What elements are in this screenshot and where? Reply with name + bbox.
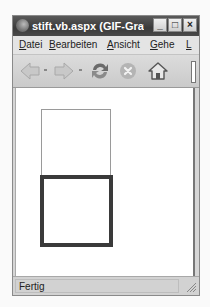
forward-arrow-icon[interactable]	[53, 61, 75, 81]
forward-dropdown[interactable]	[79, 69, 82, 71]
minimize-button[interactable]: _	[153, 18, 167, 32]
thick-rectangle	[40, 175, 113, 247]
menu-lesezeichen[interactable]: L	[186, 36, 192, 54]
browser-window: stift.vb.aspx (GIF-Graf... _ □ × Datei B…	[12, 15, 200, 296]
back-dropdown[interactable]	[44, 69, 47, 71]
thin-rectangle	[41, 109, 111, 177]
menu-ansicht[interactable]: Ansicht	[107, 36, 140, 54]
stop-icon[interactable]	[118, 61, 138, 81]
close-button[interactable]: ×	[183, 18, 197, 32]
url-bar-edge[interactable]	[191, 61, 196, 83]
status-bar: Fertig	[13, 276, 199, 295]
back-arrow-icon[interactable]	[19, 61, 41, 81]
title-bar[interactable]: stift.vb.aspx (GIF-Graf... _ □ ×	[13, 16, 199, 36]
menu-bar: Datei Bearbeiten Ansicht Gehe L	[13, 36, 199, 55]
window-title: stift.vb.aspx (GIF-Graf...	[32, 16, 144, 36]
browser-logo-icon	[16, 19, 29, 32]
reload-icon[interactable]	[89, 61, 111, 81]
window-controls: _ □ ×	[153, 18, 197, 32]
status-text: Fertig	[15, 279, 179, 293]
menu-datei[interactable]: Datei	[19, 36, 42, 54]
menu-bearbeiten[interactable]: Bearbeiten	[49, 36, 97, 54]
navigation-toolbar	[13, 55, 199, 88]
home-icon[interactable]	[147, 61, 169, 81]
menu-gehe[interactable]: Gehe	[150, 36, 174, 54]
resize-grip-icon[interactable]	[185, 281, 197, 293]
page-content	[15, 88, 195, 278]
maximize-button[interactable]: □	[168, 18, 182, 32]
